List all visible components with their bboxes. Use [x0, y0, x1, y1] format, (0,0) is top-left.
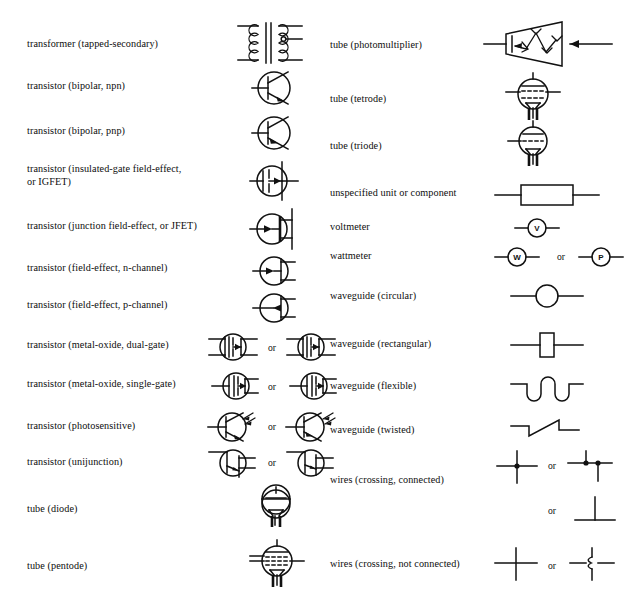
symbol-label: transistor (metal-oxide, single-gate): [27, 378, 232, 391]
wattmeter-alt-icon: P: [570, 243, 632, 271]
wattmeter-alt-glyph: P: [598, 253, 604, 262]
tube-pentode-icon: [248, 539, 306, 591]
symbol-label: waveguide (rectangular): [330, 338, 505, 351]
tube-diode-icon: [252, 485, 300, 533]
transistor-jfet-icon: [246, 205, 308, 253]
or-separator-second: or: [548, 505, 556, 516]
or-separator: or: [557, 251, 565, 262]
or-separator: or: [268, 421, 276, 432]
or-separator: or: [268, 457, 276, 468]
or-separator: or: [548, 560, 556, 571]
waveguide-flexible-icon: [491, 368, 611, 404]
transistor-fet-p-channel-icon: [250, 286, 308, 330]
symbol-label: transformer (tapped-secondary): [27, 38, 232, 51]
wires-crossing-connected-tee-icon: [569, 494, 621, 528]
wires-crossing-not-connected-hop-icon: [566, 546, 618, 582]
or-separator: or: [268, 342, 276, 353]
symbol-label: tube (tetrode): [330, 93, 505, 106]
waveguide-twisted-icon: [491, 412, 611, 448]
wires-crossing-connected-icon: [493, 450, 541, 486]
transistor-igfet-icon: [246, 156, 308, 206]
tube-photomultiplier-icon: [484, 18, 632, 70]
symbol-label: transistor (insulated-gate field-effect,…: [27, 163, 232, 188]
unspecified-unit-icon: [491, 180, 615, 210]
symbol-label: tube (triode): [330, 140, 505, 153]
transistor-mosfet-dual-gate-icon: [207, 327, 259, 367]
symbol-label: unspecified unit or component: [330, 187, 505, 200]
symbol-label: tube (pentode): [27, 560, 232, 573]
right-column: tube (photomultiplier) tu: [316, 0, 632, 615]
transistor-bipolar-npn-icon: [246, 65, 306, 111]
tube-triode-icon: [506, 120, 560, 170]
symbol-label: transistor (junction field-effect, or JF…: [27, 220, 232, 233]
or-separator: or: [268, 381, 276, 392]
symbol-label: wattmeter: [330, 250, 505, 263]
symbol-label: wires (crossing, connected): [330, 474, 505, 487]
symbol-label: transistor (bipolar, npn): [27, 80, 232, 93]
voltmeter-icon: V: [499, 215, 579, 241]
transistor-mosfet-single-gate-icon: [211, 366, 261, 406]
symbol-label: transistor (bipolar, pnp): [27, 125, 232, 138]
waveguide-circular-icon: [491, 278, 611, 314]
symbol-label: transistor (photosensitive): [27, 420, 232, 433]
waveguide-rectangular-icon: [491, 325, 611, 365]
wires-crossing-connected-alt-icon: [566, 450, 618, 486]
transformer-tapped-secondary-icon: [236, 18, 310, 68]
wattmeter-glyph: W: [513, 253, 521, 262]
left-column: transformer (tapped-secondary) trans: [0, 0, 316, 615]
symbol-label: tube (photomultiplier): [330, 39, 505, 52]
wattmeter-icon: W: [484, 243, 550, 271]
symbol-label: waveguide (circular): [330, 290, 505, 303]
symbol-label: wires (crossing, not connected): [330, 558, 505, 571]
symbol-label: transistor (metal-oxide, dual-gate): [27, 339, 232, 352]
voltmeter-glyph: V: [534, 224, 540, 233]
symbol-label: transistor (field-effect, p-channel): [27, 299, 232, 312]
tube-tetrode-icon: [504, 72, 562, 124]
symbol-label: voltmeter: [330, 221, 505, 234]
symbols-reference-page: transformer (tapped-secondary) trans: [0, 0, 632, 615]
symbol-label: waveguide (twisted): [330, 424, 505, 437]
symbol-label: tube (diode): [27, 503, 232, 516]
transistor-bipolar-pnp-icon: [246, 110, 306, 156]
wires-crossing-not-connected-icon: [493, 546, 541, 582]
symbol-label: transistor (field-effect, n-channel): [27, 262, 232, 275]
symbol-label: transistor (unijunction): [27, 456, 232, 469]
transistor-unijunction-icon: [207, 441, 263, 483]
symbol-label: waveguide (flexible): [330, 380, 505, 393]
or-separator: or: [548, 460, 556, 471]
